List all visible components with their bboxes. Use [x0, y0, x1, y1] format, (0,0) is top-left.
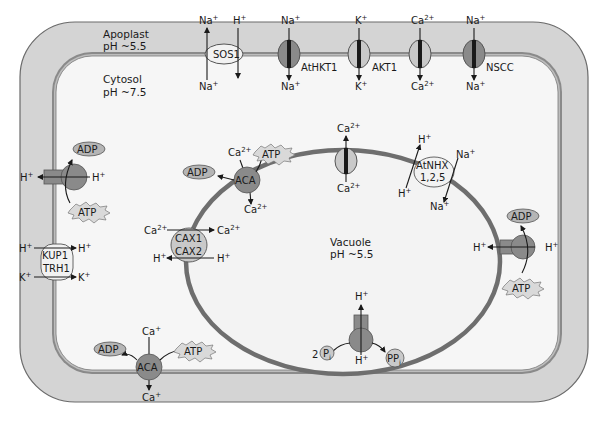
- svg-text:ADP: ADP: [511, 211, 532, 222]
- svg-text:CAX2: CAX2: [175, 246, 202, 257]
- adp-label: ADP: [507, 209, 539, 223]
- pyrophosphate-label: PPi: [386, 349, 404, 367]
- adp-label: ADP: [73, 142, 105, 156]
- svg-text:SOS1: SOS1: [213, 49, 240, 60]
- ion-transport-diagram: Apoplast pH ~5.5 Cytosol pH ~7.5 Vacuole…: [0, 0, 613, 422]
- svg-text:ADP: ADP: [77, 144, 98, 155]
- svg-text:ATP: ATP: [78, 207, 96, 218]
- svg-text:ATP: ATP: [512, 283, 530, 294]
- svg-text:Cytosol: Cytosol: [103, 73, 142, 85]
- vacuole-label: Vacuole: [330, 236, 371, 248]
- vacuole-ph: pH ~5.5: [330, 248, 373, 260]
- svg-text:ATP: ATP: [262, 149, 280, 160]
- svg-text:Apoplast: Apoplast: [103, 28, 149, 40]
- apoplast-label: Apoplast pH ~5.5: [103, 28, 149, 52]
- svg-text:ACA: ACA: [235, 175, 256, 186]
- svg-text:pH ~5.5: pH ~5.5: [103, 40, 146, 52]
- svg-text:KUP1: KUP1: [42, 250, 68, 261]
- svg-text:1,2,5: 1,2,5: [420, 172, 445, 183]
- svg-text:AtNHX: AtNHX: [416, 160, 449, 171]
- svg-text:AKT1: AKT1: [372, 62, 397, 73]
- svg-text:2: 2: [312, 349, 318, 360]
- cytosol-label: Cytosol pH ~7.5: [103, 73, 146, 98]
- svg-text:NSCC: NSCC: [486, 62, 514, 73]
- svg-text:ACA: ACA: [137, 362, 158, 373]
- svg-text:ADP: ADP: [98, 344, 119, 355]
- svg-text:CAX1: CAX1: [175, 233, 202, 244]
- svg-text:AtHKT1: AtHKT1: [301, 62, 337, 73]
- svg-text:TRH1: TRH1: [42, 263, 70, 274]
- adp-label: ADP: [94, 342, 126, 356]
- adp-label: ADP: [183, 165, 215, 179]
- svg-text:ATP: ATP: [184, 346, 202, 357]
- svg-text:ADP: ADP: [187, 167, 208, 178]
- svg-text:pH ~7.5: pH ~7.5: [103, 86, 146, 98]
